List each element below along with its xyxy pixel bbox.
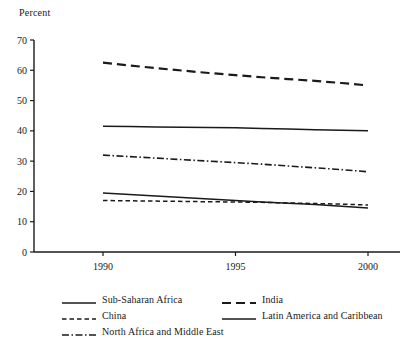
legend-item-label: China [102,310,126,321]
legend-line-swatch [62,330,96,340]
y-tick-label: 70 [17,35,27,46]
legend-swatch [62,294,96,304]
y-tick-label: 50 [17,95,27,106]
legend-column-left: Sub-Saharan AfricaChinaNorth Africa and … [62,291,224,339]
legend-item-label: North Africa and Middle East [102,326,224,337]
legend-item[interactable]: India [222,291,383,307]
x-tick-label: 1995 [226,261,246,272]
legend-item-label: Sub-Saharan Africa [102,294,182,305]
legend-swatch [62,310,96,320]
y-axis: 010203040506070 [17,35,34,258]
y-tick-label: 60 [17,65,27,76]
y-tick-label: 30 [17,156,27,167]
legend-line-swatch [222,298,256,308]
legend-item[interactable]: Sub-Saharan Africa [62,291,224,307]
x-tick-label: 1990 [93,261,113,272]
legend-swatch [222,294,256,304]
y-tick-label: 0 [22,247,27,258]
x-axis: 199019952000 [34,252,400,272]
legend-item[interactable]: Latin America and Caribbean [222,307,383,323]
legend-swatch [222,310,256,320]
series-line [103,126,368,131]
legend-item[interactable]: China [62,307,224,323]
series-line [103,155,368,172]
legend-line-swatch [222,314,256,324]
x-tick-label: 2000 [358,261,378,272]
legend-column-right: IndiaLatin America and Caribbean [222,291,383,323]
legend-item-label: India [262,294,283,305]
y-tick-label: 10 [17,216,27,227]
data-series-group [103,63,368,208]
chart-container: Percent 010203040506070 199019952000 Sub… [0,0,416,350]
legend-line-swatch [62,298,96,308]
legend-item-label: Latin America and Caribbean [262,310,383,321]
chart-legend: Sub-Saharan AfricaChinaNorth Africa and … [0,291,416,347]
legend-line-swatch [62,314,96,324]
y-tick-label: 40 [17,125,27,136]
y-tick-label: 20 [17,186,27,197]
legend-swatch [62,326,96,336]
legend-item[interactable]: North Africa and Middle East [62,323,224,339]
series-line [103,63,368,86]
